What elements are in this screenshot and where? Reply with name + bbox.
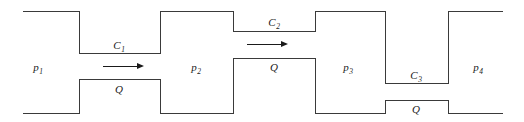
label-q1: Q <box>115 84 123 95</box>
flow-arrow-1 <box>103 63 144 69</box>
diagram-outline <box>0 0 524 122</box>
fluid-network-diagram: p1 p2 p3 p4 C1 C2 C3 Q Q Q <box>0 0 524 122</box>
label-c1: C1 <box>113 40 125 51</box>
upper-wall-path <box>23 11 503 83</box>
lower-wall-path <box>23 58 503 113</box>
label-p2: p2 <box>191 62 201 73</box>
label-c2: C2 <box>268 17 280 28</box>
label-q2: Q <box>270 62 278 73</box>
flow-arrow-2-head <box>281 41 288 47</box>
label-q3: Q <box>412 104 420 115</box>
flow-arrow-1-head <box>137 63 144 69</box>
label-p4: p4 <box>473 62 483 73</box>
label-p3: p3 <box>343 62 353 73</box>
label-p1: p1 <box>33 62 43 73</box>
flow-arrow-2 <box>247 41 288 47</box>
label-c3: C3 <box>410 70 422 81</box>
